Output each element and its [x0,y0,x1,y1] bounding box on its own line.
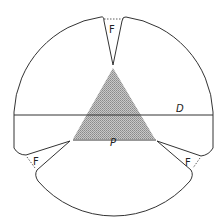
flap-left-label: F [33,156,39,167]
disc-outline-bottom [36,170,193,216]
flap-right-label: F [185,157,191,168]
flap-top-label: F [109,24,115,35]
diameter-label: D [176,103,184,114]
disc-diagram: F F F D P [0,0,221,221]
triangle-base-label: P [110,137,117,148]
right-notch-dashed-edge [193,158,200,168]
shaded-triangle [73,68,155,139]
